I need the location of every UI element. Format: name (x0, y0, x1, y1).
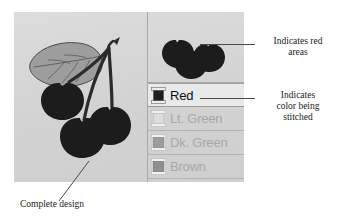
cherries-design-illustration (14, 12, 147, 182)
red-areas-preview[interactable] (148, 12, 244, 83)
cherry-bottom (60, 118, 105, 158)
cherry-group (41, 83, 131, 158)
preview-blob-3 (175, 51, 207, 79)
spool-icon (151, 134, 166, 151)
color-row-lt-green[interactable]: Lt. Green (148, 107, 244, 131)
color-row-dk-green[interactable]: Dk. Green (148, 131, 244, 155)
annotation-color-being-stitched: Indicates color being stitched (256, 90, 340, 123)
leader-line-red-areas (200, 44, 255, 45)
right-column: Red Lt. Green (148, 12, 244, 182)
software-window-panel: Red Lt. Green (14, 12, 244, 182)
color-row-label: Red (170, 88, 193, 103)
color-row-red[interactable]: Red (148, 83, 244, 107)
annotation-complete-design: Complete design (20, 199, 130, 210)
spool-icon (151, 87, 166, 104)
color-row-label: Brown (170, 159, 206, 174)
figure-root: Red Lt. Green (0, 0, 343, 221)
annotation-red-areas: Indicates red areas (256, 36, 340, 58)
leader-line-color-stitched (200, 98, 255, 99)
red-areas-preview-illustration (148, 12, 244, 82)
color-row-brown[interactable]: Brown (148, 155, 244, 179)
color-row-label: Lt. Green (170, 111, 222, 126)
leader-line-complete-design (58, 160, 92, 202)
design-canvas[interactable] (14, 12, 147, 182)
spool-icon (151, 110, 166, 127)
spool-icon (151, 158, 166, 175)
color-row-label: Dk. Green (170, 135, 227, 150)
cherry-left (41, 83, 84, 120)
